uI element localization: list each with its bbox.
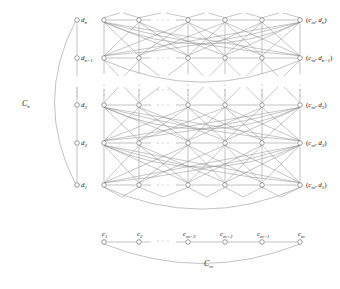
grid-vertex-r4-c1[interactable] xyxy=(137,183,142,188)
label-cm-1: cm−1 xyxy=(257,230,270,239)
grid-vertex-r4-c4[interactable] xyxy=(260,183,265,188)
grid-top-stub-edge xyxy=(283,13,300,18)
grid-vertex-r4-c5[interactable] xyxy=(298,183,303,188)
grid-diagonal-edge-partial xyxy=(262,60,278,76)
grid-vertex-r3-c0[interactable] xyxy=(102,141,107,146)
grid-row-label-4: (cm, d1) xyxy=(306,181,327,190)
grid-row-label-0: (cm, dn) xyxy=(306,16,327,25)
left-cycle-label: Cn xyxy=(22,99,30,109)
bottom-cycle-ellipsis xyxy=(167,240,168,241)
grid-col-ellipsis xyxy=(299,84,300,85)
grid-vertex-r4-c0[interactable] xyxy=(102,183,107,188)
grid-vertex-r1-c2[interactable] xyxy=(186,56,191,61)
vertex-cm-2[interactable] xyxy=(223,240,228,245)
label-cm: cm xyxy=(298,230,305,239)
grid-row-label-2: (cm, d3) xyxy=(306,101,327,110)
grid-row-ellipsis xyxy=(157,184,158,185)
vertex-d3[interactable] xyxy=(75,103,80,108)
left-cycle-closing-arc xyxy=(55,22,76,183)
grid-col-ellipsis xyxy=(138,89,139,90)
grid-col-ellipsis xyxy=(103,94,104,95)
label-d2: d2 xyxy=(81,139,88,148)
label-cm-3: cm−3 xyxy=(183,230,196,239)
grid-vertex-r1-c3[interactable] xyxy=(223,56,228,61)
grid-vertex-r2-c4[interactable] xyxy=(260,103,265,108)
grid-diagonal-edge-partial xyxy=(139,60,160,76)
grid-bottom-stub-edge xyxy=(122,187,140,197)
grid-row-ellipsis xyxy=(157,57,158,58)
grid-vertex-r1-c4[interactable] xyxy=(260,56,265,61)
grid-vertex-r2-c2[interactable] xyxy=(186,103,191,108)
grid-vertex-r3-c3[interactable] xyxy=(223,141,228,146)
vertex-cm-3[interactable] xyxy=(186,240,191,245)
label-dn-1: dn−1 xyxy=(81,54,93,63)
grid-vertex-r0-c1[interactable] xyxy=(137,18,142,23)
grid-col-ellipsis xyxy=(187,94,188,95)
grid-col-ellipsis xyxy=(187,89,188,90)
grid-col-ellipsis xyxy=(261,94,262,95)
vertex-d2[interactable] xyxy=(75,141,80,146)
grid-center-ellipsis xyxy=(167,89,168,90)
grid-bottom-stub-edge xyxy=(188,187,207,197)
grid-diagonal-edge-partial xyxy=(188,60,204,76)
grid-center-ellipsis xyxy=(162,89,163,90)
bottom-cycle-closing-arc xyxy=(104,244,300,264)
vertex-cm[interactable] xyxy=(298,240,303,245)
vertex-d1[interactable] xyxy=(75,183,80,188)
bottom-cycle-ellipsis xyxy=(162,240,163,241)
grid-bottom-stub-edge xyxy=(281,187,300,197)
grid-vertex-r2-c0[interactable] xyxy=(102,103,107,108)
vertex-dn[interactable] xyxy=(75,18,80,23)
vertex-c1[interactable] xyxy=(102,240,107,245)
grid-vertex-r3-c5[interactable] xyxy=(298,141,303,146)
grid-vertex-r2-c5[interactable] xyxy=(298,103,303,108)
grid-diagonal-edge-partial xyxy=(188,87,204,103)
grid-row-ellipsis xyxy=(162,19,163,20)
grid-vertex-r3-c1[interactable] xyxy=(137,141,142,146)
grid-top-stub-edge xyxy=(139,13,161,18)
grid-col-ellipsis xyxy=(299,89,300,90)
grid-vertex-r0-c2[interactable] xyxy=(186,18,191,23)
grid-vertex-r1-c0[interactable] xyxy=(102,56,107,61)
grid-top-stub-edge xyxy=(245,13,262,18)
grid-bottom-stub-edge xyxy=(244,187,263,197)
grid-row-ellipsis xyxy=(157,104,158,105)
grid-diagonal-edge-partial xyxy=(284,87,300,103)
grid-col-ellipsis xyxy=(103,89,104,90)
grid-vertex-r3-c2[interactable] xyxy=(186,141,191,146)
grid-vertex-r0-c4[interactable] xyxy=(260,18,265,23)
vertex-cm-1[interactable] xyxy=(260,240,265,245)
grid-top-stub-edge xyxy=(123,13,139,18)
grid-vertex-r1-c1[interactable] xyxy=(137,56,142,61)
grid-diagonal-edge-partial xyxy=(167,60,188,76)
grid-diagonal-edge-partial xyxy=(124,87,139,103)
labels-layer: dndn−1d3d2d1Cnc1c2cm−3cm−2cm−1cmCm(cm, d… xyxy=(22,16,333,269)
grid-diagonal-edge-partial xyxy=(246,87,262,103)
grid-vertex-r3-c4[interactable] xyxy=(260,141,265,146)
grid-vertex-r4-c2[interactable] xyxy=(186,183,191,188)
grid-row-wrap-arc xyxy=(104,22,300,44)
grid-col-ellipsis xyxy=(187,84,188,85)
grid-col-ellipsis xyxy=(138,84,139,85)
grid-diagonal-edge-partial xyxy=(209,60,225,76)
grid-vertex-r0-c5[interactable] xyxy=(298,18,303,23)
grid-vertex-r2-c1[interactable] xyxy=(137,103,142,108)
grid-vertex-r4-c3[interactable] xyxy=(223,183,228,188)
vertex-c2[interactable] xyxy=(137,240,142,245)
grid-col-ellipsis xyxy=(224,94,225,95)
vertex-dn-1[interactable] xyxy=(75,56,80,61)
grid-col-ellipsis xyxy=(224,84,225,85)
grid-diagonal-edge-partial xyxy=(104,60,119,76)
grid-diagonal-edge-partial xyxy=(225,60,241,76)
left-cycle-ellipsis xyxy=(76,95,77,96)
grid-vertex-r1-c5[interactable] xyxy=(298,56,303,61)
grid-vertex-r0-c3[interactable] xyxy=(223,18,228,23)
grid-vertex-r0-c0[interactable] xyxy=(102,18,107,23)
grid-vertex-r2-c3[interactable] xyxy=(223,103,228,108)
grid-row-ellipsis xyxy=(162,142,163,143)
grid-row-wrap-arc xyxy=(104,60,300,82)
grid-col-ellipsis xyxy=(261,84,262,85)
grid-top-stub-edge xyxy=(188,13,205,18)
bottom-cycle-label: Cm xyxy=(204,259,213,269)
graph-canvas: dndn−1d3d2d1Cnc1c2cm−3cm−2cm−1cmCm(cm, d… xyxy=(0,0,340,289)
